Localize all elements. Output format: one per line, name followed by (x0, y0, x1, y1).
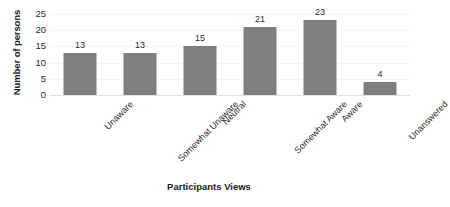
bar-value-label: 13 (135, 40, 145, 50)
bar-value-label: 23 (315, 7, 325, 17)
y-axis-tick-labels: 0510152025 (26, 9, 46, 101)
y-axis-tick-label: 5 (26, 74, 46, 84)
x-axis-category-labels: UnawareSomewhat UnawareNeutralSomewhat A… (50, 99, 410, 169)
bar-group: 21 (230, 14, 290, 95)
y-axis-tick-label: 0 (26, 90, 46, 100)
bar-value-label: 13 (75, 40, 85, 50)
bar-group: 15 (170, 14, 230, 95)
bar-value-label: 21 (255, 14, 265, 24)
plot-area: 13131521234 (50, 14, 410, 95)
bar-group: 23 (290, 14, 350, 95)
bar-group: 13 (110, 14, 170, 95)
bar (184, 46, 217, 95)
bar (304, 20, 337, 95)
x-axis-line (50, 95, 410, 96)
y-axis-title: Number of persons (11, 0, 22, 108)
bar (244, 27, 277, 95)
bar (364, 82, 397, 95)
y-axis-tick-label: 15 (26, 41, 46, 51)
y-axis-tick-label: 10 (26, 58, 46, 68)
bar-value-label: 15 (195, 33, 205, 43)
y-axis-tick-label: 25 (26, 9, 46, 19)
x-axis-category-label: Unaware (103, 99, 136, 132)
bar-group: 4 (350, 14, 410, 95)
y-axis-tick-label: 20 (26, 25, 46, 35)
x-axis-title: Participants Views (0, 181, 418, 192)
bar-group: 13 (50, 14, 110, 95)
bar (64, 53, 97, 95)
x-axis-category-label: Unanswered (407, 99, 450, 142)
bar-value-label: 4 (377, 69, 382, 79)
bar (124, 53, 157, 95)
x-axis-category-label: Somewhat Aware (292, 99, 348, 155)
